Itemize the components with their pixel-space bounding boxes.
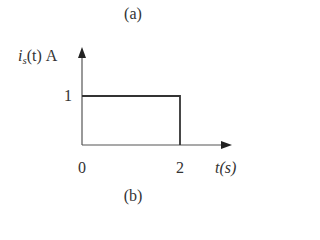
x-tick-2: 2 bbox=[176, 160, 184, 176]
x-tick-0: 0 bbox=[78, 160, 86, 176]
x-axis-arrow-icon bbox=[221, 141, 232, 149]
x-axis-unit: (s) bbox=[219, 159, 236, 176]
y-axis-arrow-icon bbox=[78, 47, 86, 58]
x-axis-label: t(s) bbox=[215, 160, 236, 176]
caption-b: (b) bbox=[124, 188, 143, 204]
pulse-series-line bbox=[82, 96, 180, 145]
